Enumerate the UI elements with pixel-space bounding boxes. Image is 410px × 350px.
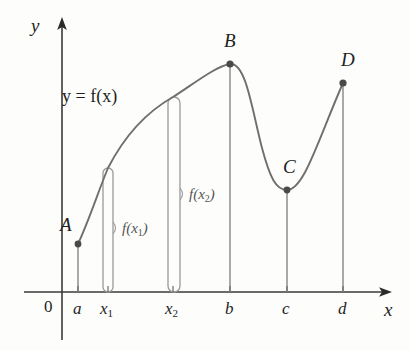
function-curve (78, 64, 343, 244)
x-axis-ticks (78, 286, 343, 292)
x-tick-label-x2-base: x (165, 299, 173, 318)
point-marker-a (75, 241, 82, 248)
point-label-d: D (341, 50, 355, 69)
point-marker-b (226, 60, 233, 67)
x-tick-label-x1-sub: 1 (108, 307, 114, 319)
ordinate-label-fx2-close: ) (210, 186, 215, 202)
x-tick-label-x1: x1 (100, 300, 113, 317)
point-marker-d (339, 79, 346, 86)
x-tick-label-c: c (282, 300, 290, 317)
point-label-b: B (224, 31, 236, 50)
ordinate-label-fx1-sub: 1 (138, 227, 143, 238)
y-axis-label: y (31, 16, 39, 35)
ordinate-bar-x2 (168, 97, 180, 292)
x-tick-label-a: a (73, 300, 82, 317)
x-axis (24, 287, 392, 297)
x-tick-label-b: b (225, 300, 234, 317)
x-tick-label-d: d (338, 300, 347, 317)
ordinate-drop-lines (78, 64, 343, 292)
curve-equation-label: y = f(x) (62, 87, 117, 105)
ordinate-label-fx2-sub: 2 (205, 193, 210, 204)
ordinate-bar-x1 (103, 168, 113, 292)
origin-label: 0 (44, 298, 53, 315)
ordinate-label-fx2: f(x2) (189, 187, 215, 202)
point-marker-c (284, 187, 291, 194)
x-tick-label-x2-sub: 2 (173, 307, 179, 319)
curve-equation-text: y = f(x) (62, 86, 117, 106)
x-tick-label-x1-base: x (100, 299, 108, 318)
x-axis-label: x (384, 300, 392, 319)
ordinate-label-fx1-base: f(x (122, 220, 138, 236)
ordinate-label-fx1: f(x1) (122, 221, 148, 236)
function-graph-figure: y x 0 y = f(x) A B C D a x1 x2 b c d f(x… (0, 0, 410, 350)
x-tick-label-x2: x2 (165, 300, 178, 317)
ordinate-label-fx2-base: f(x (189, 186, 205, 202)
point-label-a: A (60, 215, 72, 234)
ordinate-label-fx1-close: ) (143, 220, 148, 236)
point-label-c: C (283, 157, 296, 176)
sample-ordinate-bars (103, 97, 180, 292)
